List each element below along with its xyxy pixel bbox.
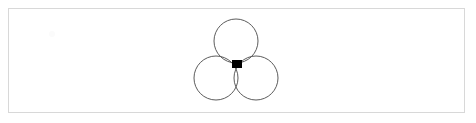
app-root xyxy=(0,0,476,123)
drawing-frame[interactable] xyxy=(8,8,465,113)
